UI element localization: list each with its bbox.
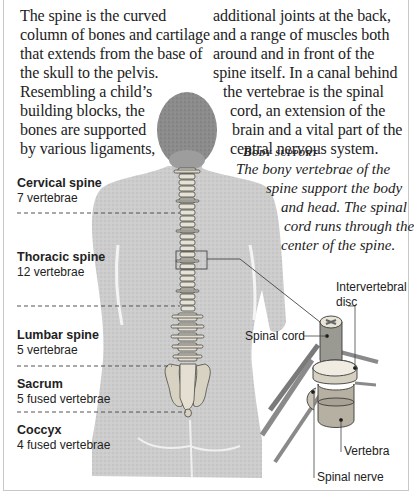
region-label-coccyx: Coccyx 4 fused vertebrae: [17, 423, 110, 453]
label-vertebra: Vertebra: [344, 444, 389, 459]
intro-line: brain and a vital part of the: [232, 120, 402, 139]
label-spinal-cord: Spinal cord: [245, 329, 305, 344]
region-count: 4 fused vertebrae: [17, 438, 110, 453]
intro-line: the skull to the pelvis.: [20, 63, 158, 82]
label-intervertebral-disc-line1: Intervertebral: [336, 280, 407, 295]
caption-line: cord runs through the: [284, 217, 414, 236]
region-name: Lumbar spine: [17, 328, 99, 343]
label-spinal-nerve: Spinal nerve: [317, 470, 384, 485]
intro-line: Resembling a child’s: [20, 82, 152, 101]
region-label-thoracic: Thoracic spine 12 vertebrae: [17, 250, 105, 280]
intro-line: column of bones and cartilage: [20, 25, 210, 44]
region-label-lumbar: Lumbar spine 5 vertebrae: [17, 328, 99, 358]
intro-line: cord, an extension of the: [230, 101, 385, 120]
region-count: 7 vertebrae: [17, 191, 102, 206]
intro-line: bones are supported: [20, 120, 146, 139]
caption-line: The bony vertebrae of the: [236, 160, 390, 179]
caption-line: spine support the body: [266, 179, 402, 198]
label-intervertebral-disc-line2: disc: [336, 295, 357, 310]
region-count: 5 vertebrae: [17, 343, 99, 358]
intro-line: around and in front of the: [213, 44, 374, 63]
region-name: Thoracic spine: [17, 250, 105, 265]
intro-line: spine itself. In a canal behind: [213, 63, 397, 82]
intro-line: by various ligaments,: [20, 139, 155, 158]
intro-line: that extends from the base of: [20, 44, 202, 63]
region-count: 5 fused vertebrae: [17, 392, 110, 407]
intro-line: building blocks, the: [20, 101, 145, 120]
region-name: Cervical spine: [17, 176, 102, 191]
caption-line: center of the spine.: [281, 236, 395, 255]
head: [157, 92, 217, 170]
region-label-cervical: Cervical spine 7 vertebrae: [17, 176, 102, 206]
region-name: Sacrum: [17, 377, 110, 392]
intro-line: The spine is the curved: [20, 6, 166, 25]
intro-line: additional joints at the back,: [213, 6, 391, 25]
caption-line: and head. The spinal: [281, 198, 407, 217]
intro-line: and a range of muscles both: [213, 25, 389, 44]
caption-title: Body support: [243, 144, 318, 160]
region-label-sacrum: Sacrum 5 fused vertebrae: [17, 377, 110, 407]
intro-line: the vertebrae is the spinal: [223, 82, 384, 101]
region-count: 12 vertebrae: [17, 265, 105, 280]
region-name: Coccyx: [17, 423, 110, 438]
